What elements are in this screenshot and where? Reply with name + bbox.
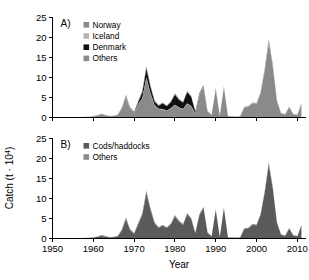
legend-swatch-denmark — [84, 44, 90, 50]
y-tick-label-b-25: 25 — [36, 133, 47, 144]
x-axis-title: Year — [169, 259, 190, 270]
area-cods-haddocks — [53, 165, 302, 239]
y-tick-label-b-5: 5 — [41, 213, 46, 224]
x-tick-label-1970: 1970 — [124, 243, 145, 254]
y-tick-label-b-10: 10 — [36, 193, 47, 204]
y-tick-label-b-15: 15 — [36, 173, 47, 184]
y-axis-title: Catch (t · 104) — [3, 147, 15, 210]
x-tick-label-1990: 1990 — [205, 243, 226, 254]
legend-swatch-others — [84, 154, 90, 160]
legend-label-cods-haddocks: Cods/haddocks — [93, 141, 150, 151]
x-tick-label-2000: 2000 — [246, 243, 267, 254]
y-tick-label-a-25: 25 — [36, 12, 47, 23]
legend-label-norway: Norway — [93, 20, 122, 30]
legend-swatch-others — [84, 56, 90, 62]
legend-swatch-norway — [84, 22, 90, 28]
y-tick-label-a-20: 20 — [36, 32, 47, 43]
x-tick-label-1960: 1960 — [83, 243, 104, 254]
legend-swatch-cods-haddocks — [84, 143, 90, 149]
y-tick-label-a-10: 10 — [36, 72, 47, 83]
panel-label-a: A) — [61, 18, 71, 29]
panel-label-b: B) — [61, 139, 71, 150]
stacked-area-chart: 0510152025A)NorwayIcelandDenmarkOthers05… — [0, 0, 309, 280]
legend-swatch-iceland — [84, 33, 90, 39]
y-tick-label-a-15: 15 — [36, 52, 47, 63]
x-tick-label-1950: 1950 — [42, 243, 63, 254]
panel-b: 05101520251950196019701980199020002010B)… — [36, 133, 308, 254]
x-tick-label-1980: 1980 — [164, 243, 185, 254]
y-tick-label-a-5: 5 — [41, 92, 46, 103]
legend-label-others: Others — [93, 53, 118, 63]
x-tick-label-2010: 2010 — [287, 243, 308, 254]
figure-container: 0510152025A)NorwayIcelandDenmarkOthers05… — [0, 0, 309, 280]
legend-label-iceland: Iceland — [93, 31, 120, 41]
panel-a: 0510152025A)NorwayIcelandDenmarkOthers — [36, 12, 306, 123]
legend-label-others: Others — [93, 152, 118, 162]
y-tick-label-a-0: 0 — [41, 112, 46, 123]
legend-label-denmark: Denmark — [93, 42, 128, 52]
y-tick-label-b-20: 20 — [36, 153, 47, 164]
